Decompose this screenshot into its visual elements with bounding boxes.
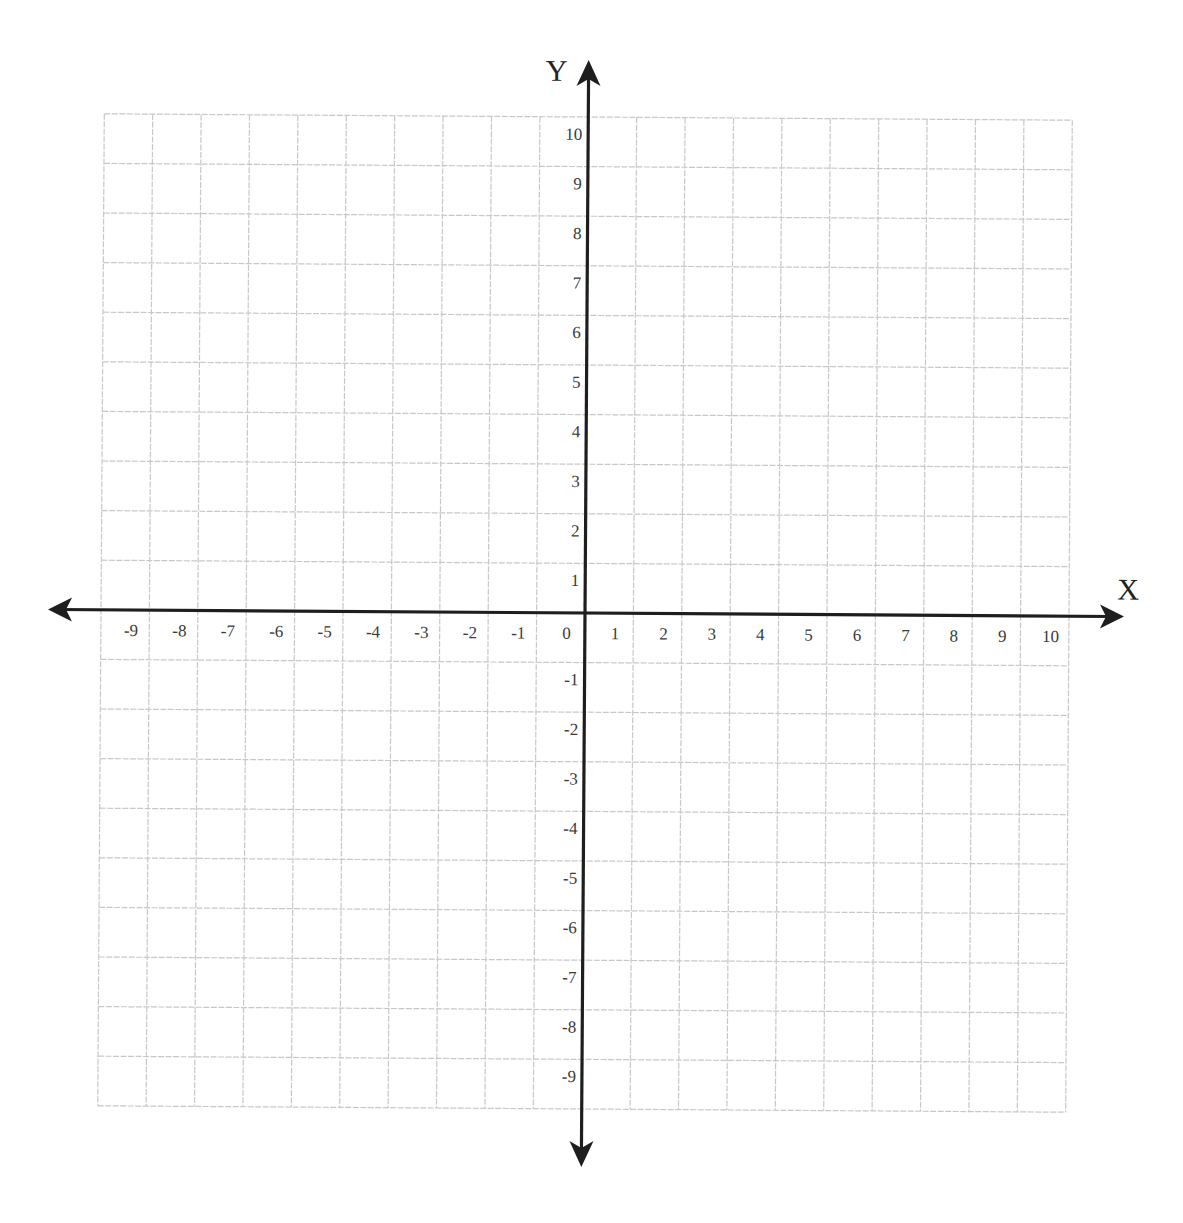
y-tick-label: -8 (562, 1017, 576, 1036)
x-tick-label: 5 (804, 625, 813, 644)
y-tick-label: 8 (573, 224, 582, 243)
x-tick-label: 10 (1042, 627, 1059, 646)
x-tick-label: -2 (463, 623, 477, 642)
x-tick-label: 0 (562, 624, 571, 643)
x-tick-label: -9 (124, 621, 138, 640)
x-axis-title: X (1117, 573, 1139, 606)
x-tick-label: -5 (318, 622, 332, 641)
y-tick-label: -9 (562, 1067, 576, 1086)
y-tick-label: -5 (563, 869, 577, 888)
x-tick-label: 6 (853, 626, 862, 645)
x-tick-labels: -9-8-7-6-5-4-3-2-1012345678910 (124, 621, 1059, 646)
y-tick-label: 2 (571, 522, 580, 541)
x-tick-label: 9 (998, 627, 1007, 646)
x-tick-label: -3 (414, 623, 428, 642)
y-tick-label: -6 (563, 918, 577, 937)
x-tick-label: -4 (366, 623, 381, 642)
x-tick-label: -8 (172, 621, 186, 640)
y-tick-label: 3 (571, 472, 580, 491)
y-tick-label: 7 (573, 274, 582, 293)
x-tick-label: -7 (221, 622, 236, 641)
x-tick-label: 4 (756, 625, 765, 644)
x-tick-label: -6 (269, 622, 283, 641)
y-tick-label: 1 (571, 571, 580, 590)
x-tick-label: 2 (659, 624, 668, 643)
y-tick-label: 6 (572, 323, 581, 342)
y-tick-label: 4 (572, 422, 581, 441)
y-tick-label: 5 (572, 373, 581, 392)
x-tick-label: 3 (708, 625, 717, 644)
y-tick-label: -7 (562, 968, 577, 987)
y-tick-label: 10 (565, 125, 582, 144)
y-tick-label: -3 (564, 769, 578, 788)
y-tick-label: -1 (564, 670, 578, 689)
y-tick-label: -2 (564, 720, 578, 739)
x-tick-label: 7 (901, 626, 910, 645)
y-tick-label: 9 (573, 174, 582, 193)
y-tick-labels: 10987654321-1-2-3-4-5-6-7-8-9 (559, 125, 583, 1086)
x-tick-label: 8 (950, 626, 959, 645)
x-tick-label: -1 (511, 624, 525, 643)
coordinate-plane: Y X -9-8-7-6-5-4-3-2-1012345678910 10987… (0, 0, 1183, 1223)
x-tick-label: 1 (611, 624, 620, 643)
y-tick-label: -4 (563, 819, 578, 838)
y-axis-title: Y (546, 54, 568, 87)
